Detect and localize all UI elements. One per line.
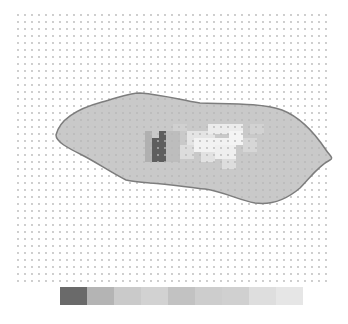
heatmap-cell — [215, 145, 236, 159]
heatmap-cell — [145, 131, 152, 162]
heatmap-cell — [250, 124, 264, 134]
map-figure — [0, 0, 348, 324]
color-scale-segment — [60, 287, 87, 305]
heatmap-cell — [166, 131, 180, 162]
heatmap-cell — [243, 138, 257, 152]
heatmap-cell — [201, 152, 215, 162]
color-scale-segment — [87, 287, 114, 305]
color-scale-segment — [141, 287, 168, 305]
heatmap-cell — [152, 138, 166, 162]
color-scale-segment — [114, 287, 141, 305]
color-scale-segment — [222, 287, 249, 305]
color-scale-segment — [276, 287, 303, 305]
heatmap-cell — [180, 145, 194, 159]
heatmap-cell — [229, 131, 243, 145]
heatmap-cell — [222, 159, 236, 169]
heatmap-cell — [173, 124, 187, 131]
color-scale-segment — [195, 287, 222, 305]
color-scale-bar — [60, 287, 303, 305]
heatmap-cell — [159, 131, 166, 139]
color-scale-segment — [168, 287, 195, 305]
color-scale-segment — [249, 287, 276, 305]
